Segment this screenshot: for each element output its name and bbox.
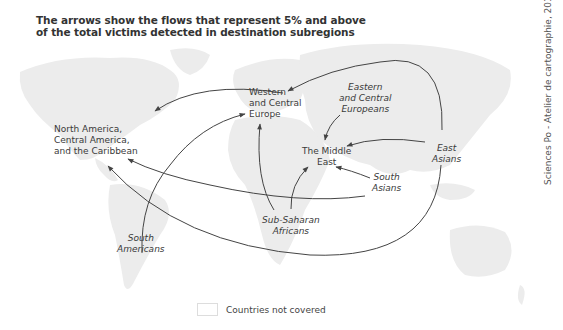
- land-new-zealand: [518, 285, 525, 305]
- label-eastern-europeans: Eastern and Central Europeans: [339, 82, 392, 115]
- label-east-asians: East Asians: [432, 143, 461, 165]
- label-south-asians: South Asians: [372, 172, 401, 194]
- label-south-americans: South Americans: [117, 233, 165, 255]
- map-credit: Sciences Po - Atelier de cartographie, 2…: [543, 0, 553, 185]
- label-north-america: North America, Central America, and the …: [54, 124, 138, 157]
- land-central-america: [95, 158, 118, 181]
- legend-label: Countries not covered: [226, 305, 326, 315]
- land-africa: [228, 116, 330, 265]
- legend: Countries not covered: [197, 303, 326, 316]
- label-sub-saharan: Sub-Saharan Africans: [262, 215, 320, 237]
- label-western-europe: Western and Central Europe: [249, 87, 302, 120]
- land-greenland: [170, 48, 210, 75]
- legend-swatch-not-covered: [197, 303, 218, 316]
- landmasses: [20, 44, 525, 305]
- label-middle-east: The Middle East: [302, 146, 351, 168]
- arrow-southasians-to-middleeast: [336, 167, 370, 178]
- land-australia: [450, 225, 512, 276]
- world-map: [0, 0, 563, 330]
